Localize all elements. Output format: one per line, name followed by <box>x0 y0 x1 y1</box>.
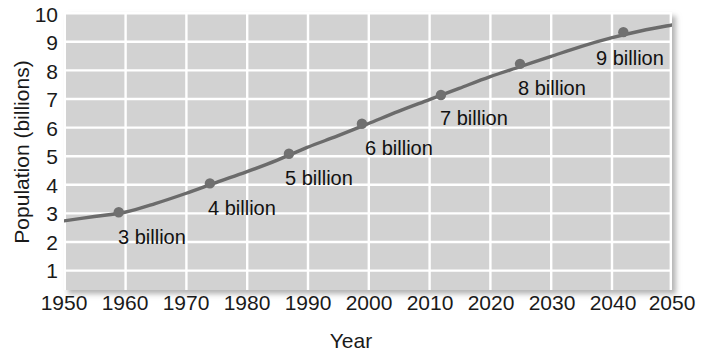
x-tick-2010: 2010 <box>407 292 454 313</box>
x-tick-2000: 2000 <box>346 292 393 313</box>
data-point-7-billion <box>436 90 446 100</box>
x-tick-1970: 1970 <box>163 292 210 313</box>
annotation-7-billion: 7 billion <box>440 108 508 128</box>
data-point-5-billion <box>284 149 294 159</box>
x-tick-2020: 2020 <box>468 292 515 313</box>
annotation-5-billion: 5 billion <box>285 168 353 188</box>
x-axis-title: Year <box>0 329 702 353</box>
x-tick-1950: 1950 <box>41 292 88 313</box>
annotation-6-billion: 6 billion <box>365 138 433 158</box>
x-axis-ticks: 1950 1960 1970 1980 1990 2000 2010 2020 … <box>0 292 702 322</box>
annotation-4-billion: 4 billion <box>208 198 276 218</box>
data-point-4-billion <box>205 178 215 188</box>
data-point-6-billion <box>357 119 367 129</box>
data-point-3-billion <box>114 207 124 217</box>
data-point-8-billion <box>515 59 525 69</box>
x-tick-2050: 2050 <box>649 292 696 313</box>
annotation-8-billion: 8 billion <box>518 78 586 98</box>
y-axis-title: Population (billions) <box>10 27 34 277</box>
x-tick-2040: 2040 <box>590 292 637 313</box>
annotation-9-billion: 9 billion <box>596 48 664 68</box>
y-tick-10: 10 <box>6 4 58 25</box>
annotation-3-billion: 3 billion <box>118 227 186 247</box>
population-growth-chart: 3 billion 4 billion 5 billion 6 billion … <box>0 0 702 359</box>
x-tick-2030: 2030 <box>529 292 576 313</box>
x-tick-1960: 1960 <box>102 292 149 313</box>
data-point-9-billion <box>618 27 628 37</box>
x-tick-1980: 1980 <box>224 292 271 313</box>
x-tick-1990: 1990 <box>285 292 332 313</box>
